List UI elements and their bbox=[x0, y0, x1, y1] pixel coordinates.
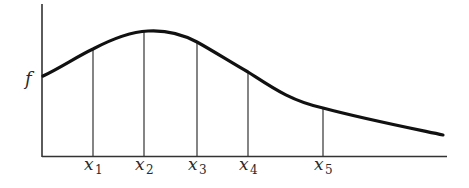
x-label-1: x 1 bbox=[84, 154, 103, 177]
svg-text:4: 4 bbox=[250, 163, 258, 177]
svg-text:5: 5 bbox=[325, 163, 333, 177]
x-label-4: x 4 bbox=[239, 154, 258, 177]
y-axis-label: f bbox=[23, 68, 35, 89]
svg-text:1: 1 bbox=[95, 163, 103, 177]
svg-text:x: x bbox=[84, 154, 94, 174]
function-diagram: f x 1 x 2 x 3 x 4 x 5 bbox=[0, 0, 469, 188]
svg-text:3: 3 bbox=[199, 163, 207, 177]
x-label-2: x 2 bbox=[135, 154, 154, 177]
x-label-5: x 5 bbox=[314, 154, 333, 177]
svg-text:x: x bbox=[135, 154, 145, 174]
x-label-3: x 3 bbox=[188, 154, 207, 177]
svg-text:2: 2 bbox=[146, 163, 154, 177]
function-curve bbox=[43, 31, 443, 135]
svg-text:x: x bbox=[188, 154, 198, 174]
svg-text:x: x bbox=[314, 154, 324, 174]
svg-text:x: x bbox=[239, 154, 249, 174]
